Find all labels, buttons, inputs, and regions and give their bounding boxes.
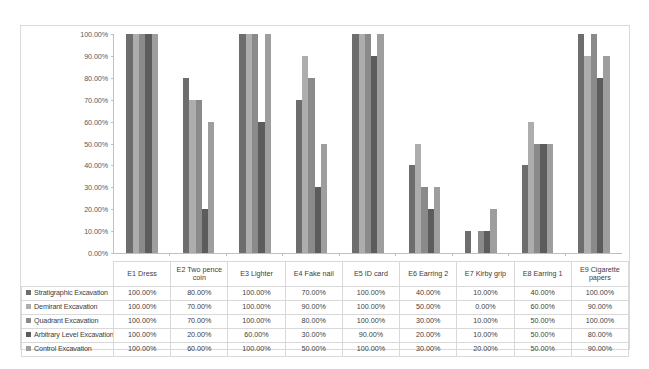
data-cell: 100.00%: [228, 343, 285, 357]
data-cell: 100.00%: [571, 287, 628, 301]
x-axis-tick-mark: [169, 253, 170, 256]
x-axis-tick-mark: [508, 253, 509, 256]
x-axis-tick-mark: [395, 253, 396, 256]
data-cell: 100.00%: [114, 343, 171, 357]
bar-group: [340, 34, 396, 253]
legend-entry[interactable]: Quadrant Excavation: [22, 315, 114, 329]
x-axis-tick-mark: [565, 253, 566, 256]
legend-entry[interactable]: Demirant Excavation: [22, 301, 114, 315]
data-cell: 100.00%: [228, 301, 285, 315]
chart-data-table: E1 DressE2 Two pence coinE3 LighterE4 Fa…: [21, 261, 629, 349]
data-cell: 50.00%: [400, 301, 457, 315]
y-axis-tick-mark: [111, 165, 114, 166]
data-cell: 100.00%: [228, 287, 285, 301]
y-axis-tick-mark: [111, 78, 114, 79]
data-cell: 30.00%: [285, 329, 342, 343]
bar-group: [509, 34, 565, 253]
bar[interactable]: [321, 144, 327, 254]
category-header: E1 Dress: [114, 262, 171, 287]
data-cell: 20.00%: [171, 329, 228, 343]
y-axis-tick-mark: [111, 144, 114, 145]
table-row: Arbitrary Level Excavation100.00%20.00%6…: [22, 329, 629, 343]
data-cell: 30.00%: [400, 315, 457, 329]
data-cell: 90.00%: [571, 301, 628, 315]
legend-label: Demirant Excavation: [34, 302, 97, 311]
bar-group: [566, 34, 622, 253]
bar[interactable]: [152, 34, 158, 253]
legend-label: Control Excavation: [34, 344, 92, 353]
data-cell: 100.00%: [571, 315, 628, 329]
data-cell: 80.00%: [171, 287, 228, 301]
data-cell: 100.00%: [114, 329, 171, 343]
x-axis-tick-mark: [226, 253, 227, 256]
data-cell: 0.00%: [457, 301, 514, 315]
y-axis-tick-label: 60.00%: [84, 117, 108, 126]
y-axis-tick-label: 10.00%: [84, 227, 108, 236]
legend-entry[interactable]: Control Excavation: [22, 343, 114, 357]
data-cell: 40.00%: [514, 287, 571, 301]
data-cell: 100.00%: [228, 315, 285, 329]
y-axis-tick-label: 40.00%: [84, 161, 108, 170]
y-axis-tick-label: 90.00%: [84, 51, 108, 60]
data-cell: 60.00%: [171, 343, 228, 357]
bar-groups: [114, 34, 622, 253]
data-cell: 100.00%: [342, 301, 399, 315]
data-cell: 10.00%: [457, 329, 514, 343]
x-axis-tick-mark: [452, 253, 453, 256]
bar[interactable]: [547, 144, 553, 254]
bar[interactable]: [208, 122, 214, 253]
data-cell: 100.00%: [342, 287, 399, 301]
legend-swatch-icon: [26, 332, 31, 337]
bar[interactable]: [265, 34, 271, 253]
data-cell: 70.00%: [171, 301, 228, 315]
bar-group: [453, 34, 509, 253]
y-axis-tick-mark: [111, 187, 114, 188]
data-cell: 30.00%: [400, 343, 457, 357]
category-header: E3 Lighter: [228, 262, 285, 287]
y-axis-tick-label: 70.00%: [84, 95, 108, 104]
category-header: E5 ID card: [342, 262, 399, 287]
data-cell: 70.00%: [285, 287, 342, 301]
header-row: E1 DressE2 Two pence coinE3 LighterE4 Fa…: [22, 262, 629, 287]
data-cell: 50.00%: [514, 329, 571, 343]
bar[interactable]: [490, 209, 496, 253]
bar[interactable]: [377, 34, 383, 253]
legend-entry[interactable]: Arbitrary Level Excavation: [22, 329, 114, 343]
y-axis-tick-mark: [111, 122, 114, 123]
bar[interactable]: [465, 231, 471, 253]
chart-frame: 100.00%90.00%80.00%70.00%60.00%50.00%40.…: [20, 25, 630, 350]
table-header: E1 DressE2 Two pence coinE3 LighterE4 Fa…: [22, 262, 629, 287]
category-header: E6 Earring 2: [400, 262, 457, 287]
data-cell: 100.00%: [114, 315, 171, 329]
data-cell: 20.00%: [400, 329, 457, 343]
data-cell: 60.00%: [228, 329, 285, 343]
data-cell: 100.00%: [342, 343, 399, 357]
data-cell: 90.00%: [285, 301, 342, 315]
legend-swatch-icon: [26, 290, 31, 295]
plot-area: [113, 34, 622, 254]
x-axis-tick-mark: [282, 253, 283, 256]
data-cell: 80.00%: [285, 315, 342, 329]
y-axis-tick-mark: [111, 100, 114, 101]
bar[interactable]: [434, 187, 440, 253]
data-cell: 10.00%: [457, 287, 514, 301]
legend-swatch-icon: [26, 304, 31, 309]
bar-group: [227, 34, 283, 253]
x-axis-tick-mark: [339, 253, 340, 256]
y-axis-tick-mark: [111, 56, 114, 57]
data-cell: 40.00%: [400, 287, 457, 301]
table-corner: [22, 262, 114, 287]
data-table: E1 DressE2 Two pence coinE3 LighterE4 Fa…: [21, 261, 629, 357]
legend-label: Arbitrary Level Excavation: [34, 330, 114, 339]
category-header: E8 Earring 1: [514, 262, 571, 287]
table-body: Stratigraphic Excavation100.00%80.00%100…: [22, 287, 629, 357]
y-axis-tick-label: 30.00%: [84, 183, 108, 192]
bar[interactable]: [603, 56, 609, 253]
table-row: Stratigraphic Excavation100.00%80.00%100…: [22, 287, 629, 301]
y-axis-tick-label: 100.00%: [80, 30, 108, 39]
legend-entry[interactable]: Stratigraphic Excavation: [22, 287, 114, 301]
data-cell: 90.00%: [571, 343, 628, 357]
bar-group: [283, 34, 339, 253]
legend-swatch-icon: [26, 318, 31, 323]
y-axis-tick-label: 20.00%: [84, 205, 108, 214]
